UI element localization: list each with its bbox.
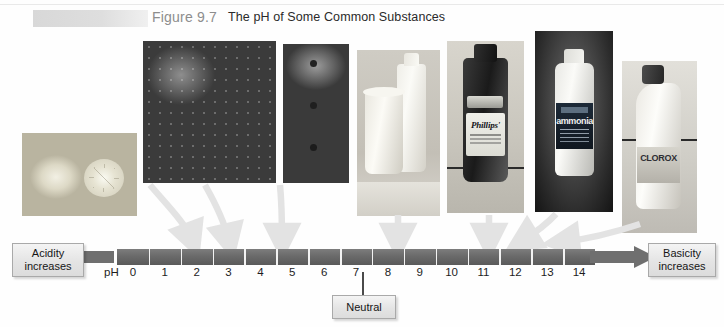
arrow-lemons-to-ph bbox=[150, 185, 192, 240]
arrow-apples-to-ph bbox=[280, 185, 282, 241]
ph-tick-13 bbox=[531, 249, 533, 265]
ph-label-8: 8 bbox=[379, 266, 397, 278]
ph-tick-9 bbox=[404, 249, 406, 265]
ph-tick-5 bbox=[276, 249, 278, 265]
photo-apples bbox=[283, 44, 349, 183]
ph-label-1: 1 bbox=[156, 266, 174, 278]
phillips-label-lines bbox=[470, 134, 501, 136]
arrow-ammonia-to-ph bbox=[522, 214, 556, 241]
ph-axis-label: pH bbox=[104, 266, 119, 278]
phillips-label: Phillips' bbox=[466, 113, 505, 156]
ph-tick-14 bbox=[563, 249, 565, 265]
basicity-increases-tag: Basicity increases bbox=[648, 243, 716, 277]
acidity-line1: Acidity bbox=[13, 247, 83, 260]
ph-tick-11 bbox=[468, 249, 470, 265]
neutral-tag: Neutral bbox=[332, 295, 396, 319]
ph-label-9: 9 bbox=[411, 266, 429, 278]
phillips-cap bbox=[474, 44, 497, 62]
milk-table-surface bbox=[357, 182, 440, 216]
header-rule bbox=[0, 4, 724, 5]
phillips-top-label bbox=[467, 96, 503, 108]
clorox-bottle bbox=[636, 83, 681, 209]
ph-label-5: 5 bbox=[283, 266, 301, 278]
photo-ammonia: ammonia bbox=[535, 31, 613, 212]
basicity-line2: increases bbox=[649, 260, 715, 273]
ph-tick-10 bbox=[436, 249, 438, 265]
clorox-brand-text: CLOROX bbox=[637, 153, 680, 163]
photo-phillips-milk-of-magnesia: Phillips' bbox=[447, 41, 524, 213]
ph-label-11: 11 bbox=[474, 266, 492, 278]
ammonia-label-lines bbox=[560, 129, 589, 130]
ph-label-12: 12 bbox=[506, 266, 524, 278]
basicity-line1: Basicity bbox=[649, 247, 715, 260]
ph-label-13: 13 bbox=[538, 266, 556, 278]
ph-tick-4 bbox=[244, 249, 246, 265]
ph-tick-8 bbox=[372, 249, 374, 265]
ph-tick-6 bbox=[308, 249, 310, 265]
ph-tick-1 bbox=[149, 249, 151, 265]
ph-tick-12 bbox=[499, 249, 501, 265]
arrow-strawberries-to-ph bbox=[205, 185, 229, 241]
photo-strawberries bbox=[143, 41, 276, 183]
photo-milk bbox=[357, 50, 440, 216]
acidity-line2: increases bbox=[13, 260, 83, 273]
ph-label-0: 0 bbox=[124, 266, 142, 278]
figure-canvas: Figure 9.7 The pH of Some Common Substan… bbox=[0, 0, 724, 327]
ph-tick-7 bbox=[340, 249, 342, 265]
phillips-brand-text: Phillips' bbox=[466, 120, 505, 130]
milk-glass bbox=[365, 92, 403, 174]
ph-tick-2 bbox=[181, 249, 183, 265]
ph-label-2: 2 bbox=[188, 266, 206, 278]
acidity-increases-tag: Acidity increases bbox=[12, 243, 84, 277]
ph-label-14: 14 bbox=[570, 266, 588, 278]
ammonia-brand-text: ammonia bbox=[556, 116, 593, 126]
ph-label-3: 3 bbox=[220, 266, 238, 278]
header-accent-band bbox=[33, 10, 148, 27]
figure-title: The pH of Some Common Substances bbox=[228, 10, 445, 24]
neutral-label: Neutral bbox=[333, 297, 395, 317]
figure-number: Figure 9.7 bbox=[152, 9, 217, 25]
ph-label-6: 6 bbox=[315, 266, 333, 278]
ph-tick-3 bbox=[213, 249, 215, 265]
photo-clorox: CLOROX bbox=[622, 61, 697, 233]
photo-lemons bbox=[22, 133, 137, 216]
ph-label-4: 4 bbox=[251, 266, 269, 278]
clorox-label: CLOROX bbox=[637, 147, 680, 183]
lemon-slice-detail bbox=[84, 159, 124, 197]
ph-scale-bar bbox=[117, 249, 595, 265]
basicity-direction-arrow bbox=[590, 246, 656, 268]
ammonia-label-header bbox=[561, 107, 588, 113]
apple-stem-detail bbox=[310, 102, 317, 109]
ph-label-7: 7 bbox=[347, 266, 365, 278]
strawberry-seed-texture bbox=[143, 41, 276, 183]
ammonia-label: ammonia bbox=[556, 103, 593, 149]
clorox-cap bbox=[642, 65, 664, 84]
ph-label-10: 10 bbox=[443, 266, 461, 278]
